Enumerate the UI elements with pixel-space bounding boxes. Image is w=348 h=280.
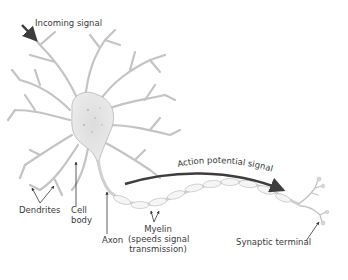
cell-body-label: Cell body <box>71 205 92 225</box>
myelin-label: Myelin (speeds signal transmission) <box>128 224 188 254</box>
myelin-label-line1: Myelin <box>128 224 188 234</box>
axon-label: Axon <box>102 235 123 245</box>
incoming-signal-arrow <box>22 25 36 40</box>
myelin-label-line2: (speeds signal <box>128 234 188 244</box>
cell-body-label-line2: body <box>71 215 92 225</box>
myelin-label-line3: transmission) <box>128 244 188 254</box>
dendrites-label: Dendrites <box>19 205 60 215</box>
synaptic-terminal-label: Synaptic terminal <box>236 237 311 247</box>
action-potential-label: Action potential signal <box>176 155 274 173</box>
incoming-signal-label: Incoming signal <box>35 18 102 28</box>
cell-body <box>72 92 114 165</box>
cell-body-label-line1: Cell <box>71 205 92 215</box>
